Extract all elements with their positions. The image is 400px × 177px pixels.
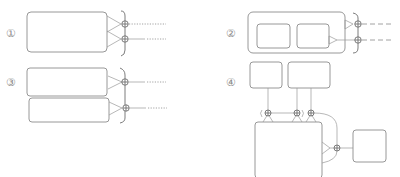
output-triangle-icon bbox=[345, 20, 353, 29]
panel-4: ④ bbox=[226, 62, 386, 177]
panel-label-4: ④ bbox=[226, 76, 236, 89]
output-triangle-icon bbox=[108, 76, 122, 89]
inner-box-left bbox=[257, 24, 290, 48]
block-box-upper bbox=[27, 68, 107, 96]
panel-label-1: ① bbox=[6, 27, 16, 40]
diagram-canvas: ① ③ ② bbox=[0, 0, 400, 177]
target-box bbox=[353, 130, 386, 162]
panel-label-2: ② bbox=[226, 27, 236, 40]
panel-3: ③ bbox=[6, 68, 167, 123]
inner-box-right bbox=[297, 24, 329, 48]
panel-2: ② bbox=[226, 12, 393, 53]
bracket bbox=[120, 68, 125, 123]
top-box-right bbox=[288, 62, 330, 88]
panel-label-3: ③ bbox=[6, 76, 16, 89]
panel-1: ① bbox=[6, 11, 166, 56]
bracket bbox=[353, 13, 358, 53]
top-box-left bbox=[250, 62, 282, 88]
output-triangle-icon bbox=[107, 31, 121, 47]
block-box-lower bbox=[29, 98, 109, 122]
output-triangle-icon bbox=[107, 16, 121, 32]
block-box bbox=[27, 12, 107, 52]
main-box bbox=[255, 122, 322, 177]
bracket bbox=[121, 11, 125, 56]
output-triangle-icon bbox=[109, 102, 122, 115]
output-triangle-icon bbox=[322, 142, 330, 154]
